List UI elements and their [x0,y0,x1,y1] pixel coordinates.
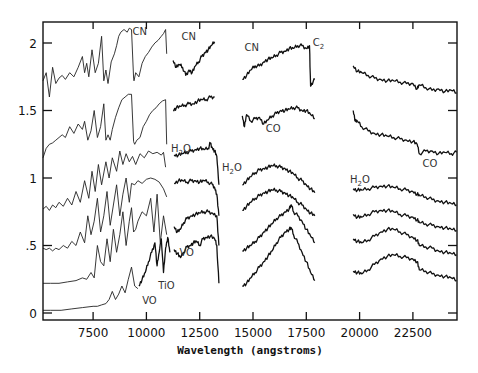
spectrum-segment [242,164,314,193]
spectrum-series [43,28,457,97]
spectrum-segment [353,185,456,206]
y-tick-label: .5 [26,239,37,253]
spectrum-segment [242,188,314,216]
spectrum-segment [174,179,219,216]
x-tick-label: 10000 [127,326,165,340]
x-tick-label: 20000 [341,326,379,340]
x-tick-label: 12500 [181,326,219,340]
spectrum-segment [173,96,215,111]
feature-label: CN [182,31,196,42]
x-axis-label: Wavelength (angstroms) [177,344,323,357]
spectrum-segment [353,254,456,281]
x-axis-ticks: 7500100001250015000175002000022500 [78,22,432,340]
y-tick-label: 2 [29,37,37,51]
spectrum-segment [43,94,167,158]
spectrum-series [43,94,457,158]
feature-label: H2O [222,162,242,176]
spectrum-segment [43,28,167,97]
x-tick-label: 7500 [78,326,109,340]
spectra-series-group [43,28,457,310]
feature-label: TiO [157,280,175,291]
spectrum-segment [353,228,456,256]
plot-frame [43,22,457,320]
spectrum-segment [242,227,314,286]
spectral-feature-annotations: CNCNCNC2COCOH2OH2OH2OVOTiOVO [133,26,438,306]
spectrum-segment [43,151,166,210]
spectrum-segment [173,42,215,76]
feature-label: CO [266,123,281,134]
feature-label: H2O [350,174,370,188]
spectra-chart: 7500100001250015000175002000022500 0.511… [0,0,478,373]
spectrum-segment [174,235,219,283]
spectrum-segment [353,66,456,93]
spectrum-segment [242,205,314,251]
spectrum-segment [43,178,167,251]
feature-label: VO [142,295,157,306]
feature-label: CO [422,158,437,169]
x-tick-label: 22500 [394,326,432,340]
x-tick-label: 17500 [287,326,325,340]
feature-label: H2O [171,143,191,157]
feature-label: VO [179,247,194,258]
x-tick-label: 15000 [234,326,272,340]
feature-label: CN [133,26,147,37]
spectrum-segment [353,209,456,231]
spectrum-segment [174,210,219,246]
spectrum-series [43,142,457,210]
y-tick-label: 1.5 [18,104,37,118]
y-tick-label: 0 [29,307,37,321]
spectrum-series [43,178,457,251]
spectrum-segment [353,111,456,156]
feature-label: C2 [313,37,324,51]
spectrum-series [43,227,457,310]
feature-label: CN [244,42,258,53]
y-tick-label: 1 [29,172,37,186]
